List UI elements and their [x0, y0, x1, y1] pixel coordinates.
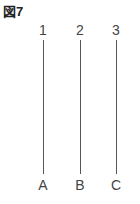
bottom-label-b: B [72, 178, 88, 192]
top-label-2: 2 [72, 23, 88, 37]
vertical-line-2 [80, 40, 81, 174]
vertical-line-1 [43, 40, 44, 174]
top-label-3: 3 [108, 23, 124, 37]
figure-title: 図7 [3, 1, 23, 20]
vertical-line-3 [116, 40, 117, 174]
top-label-1: 1 [35, 23, 51, 37]
bottom-label-c: C [108, 178, 124, 192]
bottom-label-a: A [35, 178, 51, 192]
